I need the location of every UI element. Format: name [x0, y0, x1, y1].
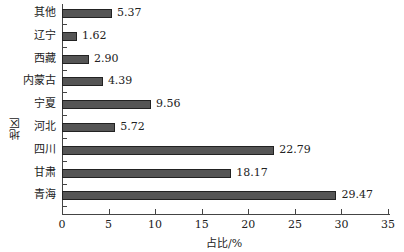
category-label: 西藏	[0, 53, 56, 65]
x-tick	[341, 209, 342, 214]
x-tick-label: 0	[47, 218, 77, 231]
category-label: 四川	[0, 144, 56, 156]
x-tick-label: 35	[373, 218, 403, 231]
category-label: 甘肃	[0, 167, 56, 179]
x-tick-label: 5	[94, 218, 124, 231]
x-tick-label: 20	[233, 218, 263, 231]
y-tick	[63, 184, 67, 185]
x-tick	[248, 209, 249, 214]
value-label: 5.72	[120, 121, 145, 133]
category-label: 其他	[0, 7, 56, 19]
value-label: 4.39	[108, 75, 133, 87]
x-tick	[388, 209, 389, 214]
y-tick	[63, 92, 67, 93]
y-axis-label: 地区	[8, 118, 24, 140]
y-tick	[63, 24, 67, 25]
category-label: 宁夏	[0, 98, 56, 110]
bar	[62, 77, 103, 86]
y-tick	[63, 70, 67, 71]
bar	[62, 123, 115, 132]
category-label: 青海	[0, 189, 56, 201]
bar	[62, 55, 89, 64]
y-tick	[63, 138, 67, 139]
x-tick-label: 15	[187, 218, 217, 231]
y-tick	[63, 47, 67, 48]
value-label: 2.90	[94, 53, 119, 65]
value-label: 5.37	[117, 7, 142, 19]
x-axis	[62, 214, 390, 215]
x-tick	[295, 209, 296, 214]
x-tick-label: 10	[140, 218, 170, 231]
value-label: 22.79	[279, 144, 311, 156]
x-tick	[202, 209, 203, 214]
x-axis-label: 占比/%	[206, 234, 242, 250]
bar	[62, 100, 151, 109]
x-tick	[62, 209, 63, 214]
bar-chart: 0 5 10 15 20 25 30 35 其他5.37辽宁1.62西藏2.90…	[0, 0, 404, 252]
y-tick	[63, 206, 67, 207]
x-tick	[155, 209, 156, 214]
bar	[62, 9, 112, 18]
bar	[62, 169, 231, 178]
bar	[62, 146, 274, 155]
y-tick	[63, 115, 67, 116]
bar	[62, 32, 77, 41]
value-label: 1.62	[82, 30, 107, 42]
value-label: 29.47	[341, 189, 373, 201]
x-tick-label: 25	[280, 218, 310, 231]
x-tick-label: 30	[326, 218, 356, 231]
y-tick	[63, 161, 67, 162]
category-label: 内蒙古	[0, 75, 56, 87]
x-tick	[109, 209, 110, 214]
value-label: 18.17	[236, 167, 268, 179]
value-label: 9.56	[156, 98, 181, 110]
bar	[62, 191, 336, 200]
category-label: 辽宁	[0, 30, 56, 42]
